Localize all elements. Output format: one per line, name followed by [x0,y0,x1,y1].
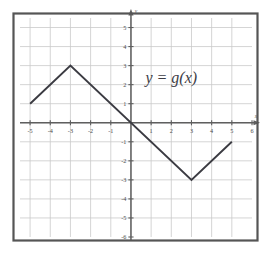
x-tick-label: 3 [190,127,193,134]
x-tick-label: -2 [88,127,93,134]
y-tick-label: -3 [121,176,126,183]
y-tick-label: -4 [121,195,126,202]
x-tick-label: 2 [170,127,173,134]
y-tick-label: -1 [121,138,126,145]
curve-annotation-label: y = g(x) [143,69,197,87]
x-tick-label: 5 [230,127,233,134]
x-tick-label: 1 [150,127,153,134]
x-tick-label: -1 [108,127,113,134]
x-tick-label: -5 [28,127,33,134]
coordinate-plane-svg: -5-4-3-2-112345654321-1-2-3-4-5-6xyy = g… [0,0,275,253]
figure-background [0,0,275,253]
y-tick-label: -2 [121,157,126,164]
x-tick-label: -3 [68,127,73,134]
graph-figure: -5-4-3-2-112345654321-1-2-3-4-5-6xyy = g… [0,0,275,253]
x-tick-label: -4 [48,127,53,134]
y-tick-label: 2 [123,81,126,88]
y-tick-label: -5 [121,214,126,221]
y-tick-label: 3 [123,62,126,69]
y-tick-label: 1 [123,100,126,107]
x-tick-label: 4 [210,127,213,134]
x-tick-label: 6 [250,127,253,134]
y-tick-label: 4 [123,43,126,50]
y-tick-label: -6 [121,233,126,240]
y-tick-label: 5 [123,24,126,31]
